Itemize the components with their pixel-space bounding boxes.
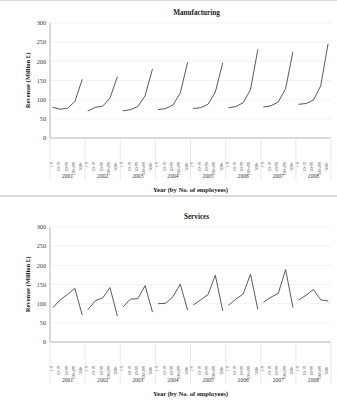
x-category-label: 1-9 — [189, 162, 194, 167]
x-category-label: 1-9 — [84, 366, 89, 371]
data-series-2007 — [264, 52, 293, 107]
x-category-label: 20-99 — [204, 366, 209, 376]
x-category-label: 10-19 — [127, 162, 132, 172]
x-category-label: 1-9 — [295, 162, 300, 167]
data-series-2006 — [229, 50, 258, 108]
x-group-label-2004: 2004 — [167, 173, 178, 179]
x-category-label: 20-99 — [274, 162, 279, 172]
x-group-label-2006: 2006 — [238, 173, 249, 179]
data-series-2003 — [123, 286, 152, 312]
x-group-label-2003: 2003 — [132, 377, 143, 383]
chart-panel-manufacturing: Manufacturing050100150200250300Revenue (… — [0, 0, 337, 196]
x-category-label: 10-19 — [91, 366, 96, 376]
x-category-label: 1-9 — [49, 162, 54, 167]
x-category-label: 10-19 — [91, 162, 96, 172]
x-axis-title: Year (by No. of employees) — [153, 186, 228, 194]
x-category-label: 500+ — [219, 365, 224, 374]
x-category-label: 500+ — [324, 161, 329, 170]
x-category-label: 500+ — [289, 161, 294, 170]
services-chart: Services050100150200250300Revenue (Milli… — [0, 197, 337, 403]
data-series-2001 — [53, 80, 82, 110]
x-category-label: 1-9 — [295, 366, 300, 371]
data-series-2002 — [88, 288, 117, 316]
x-category-label: 20-99 — [134, 366, 139, 376]
x-category-label: 10-19 — [197, 366, 202, 376]
x-category-label: 1-9 — [225, 366, 230, 371]
y-tick-label: 250 — [37, 38, 46, 45]
x-category-label: 500+ — [113, 365, 118, 374]
x-category-label: 500+ — [254, 365, 259, 374]
x-category-label: 500+ — [184, 365, 189, 374]
data-series-2005 — [193, 63, 222, 108]
x-category-label: 20-99 — [309, 366, 314, 376]
x-category-label: 20-99 — [204, 162, 209, 172]
x-category-label: 10-19 — [56, 162, 61, 172]
x-category-label: 1-9 — [260, 366, 265, 371]
x-category-label: 10-19 — [162, 162, 167, 172]
x-category-label: 10-19 — [267, 366, 272, 376]
x-category-label: 10-19 — [302, 162, 307, 172]
x-category-label: 20-99 — [134, 162, 139, 172]
x-category-label: 1-9 — [119, 366, 124, 371]
x-category-label: 10-19 — [232, 366, 237, 376]
x-category-label: 20-99 — [239, 366, 244, 376]
y-axis-title: Revenue (Million £) — [24, 53, 32, 109]
data-series-2003 — [123, 69, 152, 110]
x-category-label: 500+ — [254, 161, 259, 170]
y-tick-label: 0 — [43, 134, 46, 141]
x-category-label: 10-19 — [197, 162, 202, 172]
y-axis-title: Revenue (Million £) — [24, 257, 32, 313]
x-category-label: 20-99 — [99, 366, 104, 376]
x-group-label-2002: 2002 — [97, 377, 108, 383]
x-group-label-2002: 2002 — [97, 173, 108, 179]
x-group-label-2001: 2001 — [62, 377, 73, 383]
manufacturing-chart: Manufacturing050100150200250300Revenue (… — [0, 1, 337, 197]
x-category-label: 10-19 — [267, 162, 272, 172]
x-category-label: 500+ — [148, 365, 153, 374]
y-tick-label: 50 — [40, 115, 46, 122]
x-group-label-2004: 2004 — [167, 377, 178, 383]
data-series-2005 — [193, 275, 222, 310]
x-group-label-2005: 2005 — [202, 377, 213, 383]
x-category-label: 20-99 — [309, 162, 314, 172]
x-category-label: 500+ — [289, 365, 294, 374]
x-category-label: 500+ — [78, 365, 83, 374]
x-category-label: 20-99 — [169, 162, 174, 172]
data-series-2007 — [264, 270, 293, 308]
x-category-label: 10-19 — [232, 162, 237, 172]
y-tick-label: 300 — [37, 19, 46, 26]
x-category-label: 20-99 — [274, 366, 279, 376]
y-tick-label: 150 — [37, 77, 46, 84]
x-category-label: 10-19 — [127, 366, 132, 376]
data-series-2001 — [53, 288, 82, 314]
y-tick-label: 50 — [40, 319, 46, 326]
x-category-label: 1-9 — [119, 162, 124, 167]
x-category-label: 20-99 — [64, 366, 69, 376]
figure-page: Manufacturing050100150200250300Revenue (… — [0, 0, 337, 403]
data-series-2002 — [88, 77, 117, 111]
x-category-label: 10-19 — [162, 366, 167, 376]
y-tick-label: 200 — [37, 262, 46, 269]
x-category-label: 1-9 — [189, 366, 194, 371]
chart-title: Services — [184, 213, 209, 221]
x-category-label: 10-19 — [56, 366, 61, 376]
y-tick-label: 250 — [37, 242, 46, 249]
x-axis-title: Year (by No. of employees) — [153, 390, 228, 398]
x-category-label: 1-9 — [260, 162, 265, 167]
x-group-label-2008: 2008 — [308, 377, 319, 383]
x-group-label-2008: 2008 — [308, 173, 319, 179]
x-category-label: 20-99 — [64, 162, 69, 172]
y-tick-label: 200 — [37, 58, 46, 65]
data-series-2008 — [299, 289, 328, 301]
x-category-label: 20-99 — [169, 366, 174, 376]
chart-panel-services: Services050100150200250300Revenue (Milli… — [0, 196, 337, 403]
x-category-label: 500+ — [148, 161, 153, 170]
x-category-label: 500+ — [78, 161, 83, 170]
x-category-label: 1-9 — [84, 162, 89, 167]
x-group-label-2003: 2003 — [132, 173, 143, 179]
x-group-label-2005: 2005 — [202, 173, 213, 179]
x-category-label: 500+ — [219, 161, 224, 170]
x-category-label: 20-99 — [239, 162, 244, 172]
data-series-2004 — [158, 63, 187, 110]
x-group-label-2007: 2007 — [273, 173, 284, 179]
